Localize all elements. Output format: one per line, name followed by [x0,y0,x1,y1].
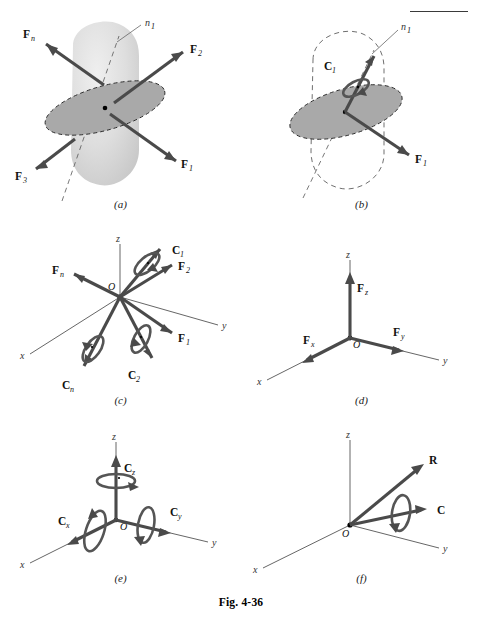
axis-label-y: y [221,320,227,331]
vector-Fy: F y [350,326,405,355]
panel-d-diagram: z y x O F z F y F [241,232,482,400]
center-point [103,106,108,111]
label-F3: F 3 [15,170,27,185]
svg-text:3: 3 [22,176,27,185]
axis-label-y: y [211,537,217,548]
svg-text:n: n [60,270,64,279]
panel-e: z y x O C z C y [0,420,241,600]
vector-C1: C 1 [120,244,184,297]
label-n1: n 1 [145,17,155,31]
svg-text:2: 2 [198,49,202,58]
svg-text:F: F [52,264,59,276]
axis-label-x: x [19,559,25,570]
svg-text:n: n [31,34,35,43]
axis-label-z: z [111,431,116,442]
svg-text:2: 2 [136,375,140,384]
vector-F1: F 1 [120,297,190,347]
vector-F3 [36,139,75,169]
svg-text:C: C [437,504,445,516]
axis-x [263,525,350,568]
svg-text:F: F [303,334,310,346]
panel-f-diagram: z y x O R C [241,420,482,580]
panel-a-label: (a) [0,198,241,210]
vector-Cz: C z [97,455,139,520]
axis-n1-extension [372,30,398,54]
vector-Fx: F x [302,334,350,363]
svg-text:1: 1 [189,164,193,173]
svg-text:1: 1 [186,338,190,347]
figure-4-36: F n F 2 F 1 F 3 n 1 (a) [0,0,482,630]
svg-text:z: z [131,468,136,477]
panel-c-label: (c) [0,394,241,406]
svg-text:n: n [145,17,150,28]
svg-text:F: F [190,43,197,55]
axis-label-z: z [345,429,350,440]
label-n1: n 1 [401,21,411,35]
panel-c-diagram: z y x O F n F 2 F [0,232,241,400]
panel-e-label: (e) [0,572,241,584]
axis-label-y: y [442,355,448,366]
panel-c: z y x O F n F 2 F [0,232,241,417]
svg-text:x: x [65,521,70,530]
svg-text:y: y [400,332,405,341]
panel-a-diagram: F n F 2 F 1 F 3 n 1 [0,8,241,204]
svg-text:R: R [429,454,438,466]
vector-Cn: C n [62,297,120,394]
svg-text:F: F [178,332,185,344]
svg-text:n: n [401,21,406,32]
panel-f-label: (f) [241,572,482,584]
panel-f: z y x O R C (f) [241,420,482,600]
panel-b: C 1 F 1 n 1 (b) [241,8,482,220]
figure-caption: Fig. 4-36 [0,596,482,608]
panel-a: F n F 2 F 1 F 3 n 1 (a) [0,8,241,220]
svg-text:y: y [177,512,182,521]
svg-text:F: F [181,158,188,170]
vector-Fz: F z [345,272,369,338]
label-C1: C 1 [324,60,336,75]
axis-label-x: x [19,350,25,361]
panel-e-diagram: z y x O C z C y [0,420,241,580]
svg-text:F: F [23,28,30,40]
label-F1: F 1 [415,153,427,168]
svg-text:1: 1 [151,22,155,31]
svg-text:1: 1 [423,159,427,168]
label-F1: F 1 [181,158,193,173]
axis-label-z: z [345,249,350,260]
origin-label-O: O [342,528,349,539]
svg-text:2: 2 [186,266,190,275]
svg-text:n: n [70,385,74,394]
svg-text:z: z [364,288,369,297]
panel-b-label: (b) [241,198,482,210]
svg-text:F: F [15,170,22,182]
svg-text:1: 1 [332,66,336,75]
label-Fn: F n [23,28,35,43]
axis-label-z: z [115,233,120,244]
label-F2: F 2 [190,43,202,58]
svg-text:F: F [415,153,422,165]
svg-text:1: 1 [407,26,411,35]
panel-b-diagram: C 1 F 1 n 1 [241,8,482,204]
svg-text:F: F [178,260,185,272]
axis-y [120,297,218,325]
axis-label-y: y [442,543,448,554]
svg-text:x: x [310,340,315,349]
svg-text:F: F [393,326,400,338]
svg-text:F: F [357,282,364,294]
panel-d-label: (d) [241,394,482,406]
vector-Cx: C x [58,508,116,554]
panel-d: z y x O F z F y F [241,232,482,417]
axis-label-x: x [256,376,262,387]
svg-text:1: 1 [180,250,184,259]
